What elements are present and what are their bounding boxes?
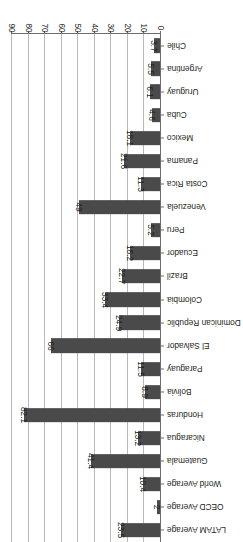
category-axis: ChileArgentinaUruguayCubaMexicoPanamaCos…	[161, 34, 243, 542]
bar-value-label: 49	[75, 203, 83, 212]
bar-value-label: 13.2	[134, 430, 142, 446]
category-axis-tick	[161, 438, 164, 439]
category-axis-tick	[161, 207, 164, 208]
category-axis-tick	[161, 415, 164, 416]
category-axis-tick	[161, 461, 164, 462]
category-axis-label: Bolivia	[167, 388, 191, 396]
bar-value-label: 41.4	[87, 453, 95, 469]
category-axis-label: Guatemala	[167, 457, 208, 465]
bar-value-label: 6.1	[146, 86, 154, 98]
category-axis-label: OECD Average	[167, 503, 224, 511]
value-axis-tick-label: 40	[91, 23, 99, 32]
value-axis-tick-label: 0	[157, 26, 165, 31]
bar-value-label: 24.9	[115, 315, 123, 331]
category-axis-tick	[161, 530, 164, 531]
category-axis-tick	[161, 68, 164, 69]
bar-value-label: 66	[47, 341, 55, 350]
bar-value-label: 2	[153, 505, 161, 510]
category-axis-label: Cuba	[167, 111, 187, 119]
category-axis-tick	[161, 368, 164, 369]
plot-area: 3.75.56.14.618.121.611.3495.218.222.733.…	[12, 34, 161, 542]
bar-value-label: 18.2	[126, 245, 134, 261]
category-axis-label: Peru	[167, 226, 185, 234]
category-axis-tick	[161, 345, 164, 346]
bar-value-label: 18.1	[126, 130, 134, 146]
bar	[91, 454, 160, 468]
bar-value-label: 82.1	[20, 407, 28, 423]
category-axis-tick	[161, 230, 164, 231]
bar-value-label: 33.4	[101, 291, 109, 307]
category-axis-label: Uruguay	[167, 88, 198, 96]
value-axis-tick-label: 60	[58, 23, 66, 32]
category-axis-label: Paraguay	[167, 365, 203, 373]
value-axis-tick-label: 10	[140, 23, 148, 32]
bar-value-label: 5.2	[147, 225, 155, 237]
category-axis-tick	[161, 114, 164, 115]
category-axis-label: Honduras	[167, 411, 203, 419]
rotated-bar-chart-figure: ChileArgentinaUruguayCubaMexicoPanamaCos…	[0, 0, 243, 542]
category-axis-tick	[161, 137, 164, 138]
category-axis-tick	[161, 184, 164, 185]
category-axis-label: Colombia	[167, 295, 202, 303]
chart-canvas: ChileArgentinaUruguayCubaMexicoPanamaCos…	[0, 0, 243, 542]
value-axis-line	[12, 33, 161, 34]
category-axis-tick	[161, 276, 164, 277]
category-axis-label: Venezuela	[167, 203, 206, 211]
category-axis-label: Chile	[167, 41, 186, 49]
bar-value-label: 5.5	[147, 63, 155, 75]
value-axis-tick-label: 20	[124, 23, 132, 32]
bar-value-label: 11.3	[137, 176, 145, 192]
category-axis-tick	[161, 484, 164, 485]
bar	[24, 408, 160, 422]
bar	[122, 269, 160, 283]
bar-value-label: 3.7	[150, 40, 158, 52]
category-axis-label: Dominican Republic	[167, 318, 241, 326]
bar-value-label: 8.9	[141, 386, 149, 398]
category-axis-label: Mexico	[167, 134, 193, 142]
category-axis-tick	[161, 299, 164, 300]
bar	[124, 154, 160, 168]
bar	[51, 339, 160, 353]
value-axis: 0102030405060708090	[12, 0, 161, 34]
category-axis-label: Nicaragua	[167, 434, 205, 442]
bar-value-label: 22.7	[118, 268, 126, 284]
category-axis-label: World Average	[167, 480, 221, 488]
category-axis-label: Brazil	[167, 272, 188, 280]
value-axis-tick-label: 70	[41, 23, 49, 32]
bar	[119, 315, 160, 329]
category-axis-tick	[161, 45, 164, 46]
category-axis-label: LATAM Average	[167, 526, 226, 534]
category-axis-tick	[161, 322, 164, 323]
value-axis-tick-label: 80	[24, 23, 32, 32]
gridline	[77, 34, 78, 542]
bar	[121, 523, 160, 537]
category-axis-tick	[161, 253, 164, 254]
value-axis-tick-label: 90	[8, 23, 16, 32]
value-axis-tick	[160, 31, 161, 34]
category-axis-tick	[161, 91, 164, 92]
bar	[79, 200, 160, 214]
category-axis-label: Ecuador	[167, 249, 198, 257]
bar-value-label: 23.5	[117, 522, 125, 538]
gridline	[28, 34, 29, 542]
bar-value-label: 4.6	[148, 109, 156, 121]
category-axis-label: Argentina	[167, 64, 203, 72]
category-axis-tick	[161, 161, 164, 162]
category-axis-tick	[161, 391, 164, 392]
category-axis-line	[160, 34, 161, 542]
category-axis-label: El Salvador	[167, 342, 209, 350]
bar-value-label: 11.5	[137, 361, 145, 377]
bar	[105, 292, 160, 306]
gridline	[11, 34, 12, 542]
bar-value-label: 10.4	[139, 476, 147, 492]
value-axis-tick-label: 50	[74, 23, 82, 32]
gridline	[61, 34, 62, 542]
category-axis-label: Panama	[167, 157, 198, 165]
gridline	[44, 34, 45, 542]
bar-value-label: 21.6	[120, 153, 128, 169]
category-axis-label: Costa Rica	[167, 180, 208, 188]
value-axis-tick-label: 30	[107, 23, 115, 32]
